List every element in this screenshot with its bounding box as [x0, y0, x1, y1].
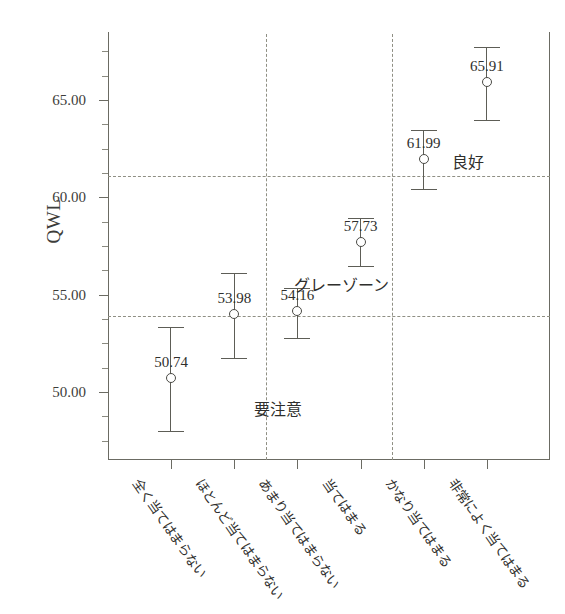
x-tick-mark — [361, 460, 362, 469]
x-axis-label: 非常によく当てはまる — [444, 474, 535, 592]
y-tick-label: 50.00 — [20, 383, 86, 400]
x-tick-mark — [234, 460, 235, 469]
data-point-value-label: 53.98 — [217, 290, 251, 307]
error-bar-cap-lower — [474, 120, 500, 121]
zone-annotation: 要注意 — [254, 396, 302, 420]
y-minor-tick — [102, 173, 108, 174]
data-point-marker[interactable] — [166, 373, 176, 383]
data-point-value-label: 50.74 — [154, 354, 188, 371]
error-bar-cap-upper — [474, 47, 500, 48]
y-tick-label: 60.00 — [20, 189, 86, 206]
y-minor-tick — [102, 319, 108, 320]
zone-annotation: 良好 — [452, 149, 484, 173]
y-minor-tick — [102, 368, 108, 369]
y-tick-mark — [99, 295, 109, 296]
y-axis-title: QWL — [43, 161, 65, 281]
y-tick-mark — [99, 392, 109, 393]
y-tick-label: 65.00 — [20, 92, 86, 109]
x-tick-mark — [171, 460, 172, 469]
y-minor-tick — [102, 149, 108, 150]
y-minor-tick — [102, 51, 108, 52]
reference-line-vertical — [392, 34, 393, 460]
y-minor-tick — [102, 343, 108, 344]
x-tick-mark — [424, 460, 425, 469]
error-bar-cap-lower — [284, 338, 310, 339]
data-point-value-label: 57.73 — [344, 218, 378, 235]
plot-frame — [108, 32, 550, 460]
reference-line-horizontal — [108, 176, 550, 177]
y-minor-tick — [102, 441, 108, 442]
y-minor-tick — [102, 270, 108, 271]
data-point-marker[interactable] — [419, 154, 429, 164]
error-bar-cap-lower — [348, 266, 374, 267]
error-bar-cap-lower — [411, 189, 437, 190]
error-bar-cap-lower — [158, 431, 184, 432]
error-bar-cap-upper — [411, 130, 437, 131]
error-bar-cap-upper — [158, 327, 184, 328]
zone-annotation: グレーゾーン — [294, 272, 389, 296]
x-axis-label: 当てはまる — [318, 474, 372, 539]
chart-canvas: QWL 50.0055.0060.0065.00 全く当てはまらないほとんど当て… — [0, 0, 565, 614]
y-tick-label: 55.00 — [20, 286, 86, 303]
reference-line-horizontal — [108, 316, 550, 317]
error-bar-cap-lower — [221, 358, 247, 359]
y-minor-tick — [102, 246, 108, 247]
y-minor-tick — [102, 222, 108, 223]
y-minor-tick — [102, 76, 108, 77]
y-tick-mark — [99, 197, 109, 198]
y-minor-tick — [102, 416, 108, 417]
x-tick-mark — [297, 460, 298, 469]
data-point-value-label: 65.91 — [470, 58, 504, 75]
y-tick-mark — [99, 100, 109, 101]
y-minor-tick — [102, 124, 108, 125]
data-point-marker[interactable] — [356, 237, 366, 247]
data-point-value-label: 61.99 — [407, 135, 441, 152]
x-tick-mark — [487, 460, 488, 469]
error-bar-cap-upper — [221, 273, 247, 274]
